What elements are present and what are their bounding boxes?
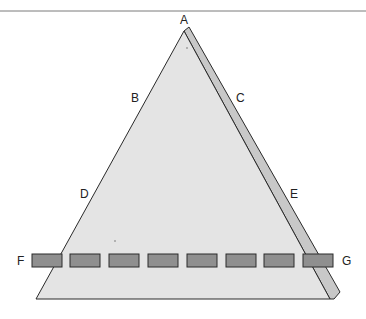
block-6 [226, 254, 256, 267]
label-e: E [290, 187, 298, 201]
label-a: A [180, 13, 188, 27]
block-7 [264, 254, 294, 267]
block-5 [187, 254, 217, 267]
label-c: C [236, 91, 245, 105]
label-d: D [80, 187, 89, 201]
label-f: F [17, 254, 24, 268]
block-3 [109, 254, 139, 267]
block-8 [303, 254, 333, 267]
label-b: B [131, 91, 139, 105]
label-g: G [342, 254, 351, 268]
triangle-diagram: A B C D E F G [0, 0, 366, 319]
block-1 [32, 254, 62, 267]
speck [114, 240, 116, 242]
block-4 [148, 254, 178, 267]
speck [186, 47, 188, 49]
block-2 [70, 254, 100, 267]
